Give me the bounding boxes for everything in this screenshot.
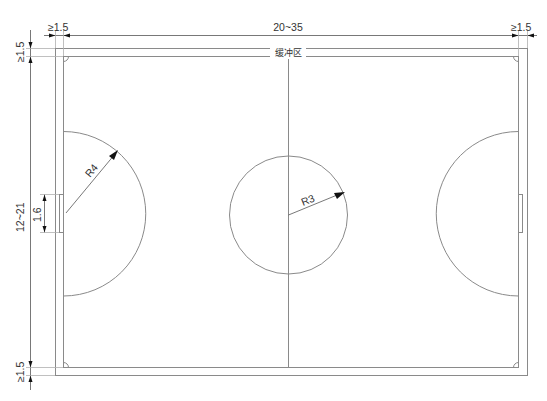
field-boundary [64,57,519,368]
r4-arrow-icon [109,150,118,160]
dim-length: 20~35 [273,21,303,33]
dim-width: 12~21 [14,202,26,232]
dim-left-bottom-margin: ≥1.5 [14,361,26,382]
buffer-zone-boundary [56,49,528,376]
dim-top-right-margin: ≥1.5 [511,21,532,33]
corner-arc-tr [514,57,519,62]
right-penalty-arc [436,132,518,297]
right-goal [519,195,523,233]
pitch-diagram: R3 R4 缓冲区 ≥1.5 20~35 ≥1.5 ≥1.5 12~21 ≥1.… [0,0,547,401]
corner-arc-tl [64,57,69,62]
dim-top-left-margin: ≥1.5 [48,21,69,33]
left-goal [60,195,64,233]
r4-label: R4 [82,161,100,179]
dim-goal-width: 1.6 [31,207,43,222]
r3-label: R3 [299,192,316,208]
r3-radius-line [289,193,343,215]
buffer-zone-label: 缓冲区 [275,47,302,58]
corner-arc-br [514,363,519,368]
left-penalty-arc [64,132,146,297]
corner-arc-bl [64,363,69,368]
r3-arrow-icon [334,192,345,199]
dim-left-top-margin: ≥1.5 [14,41,26,62]
